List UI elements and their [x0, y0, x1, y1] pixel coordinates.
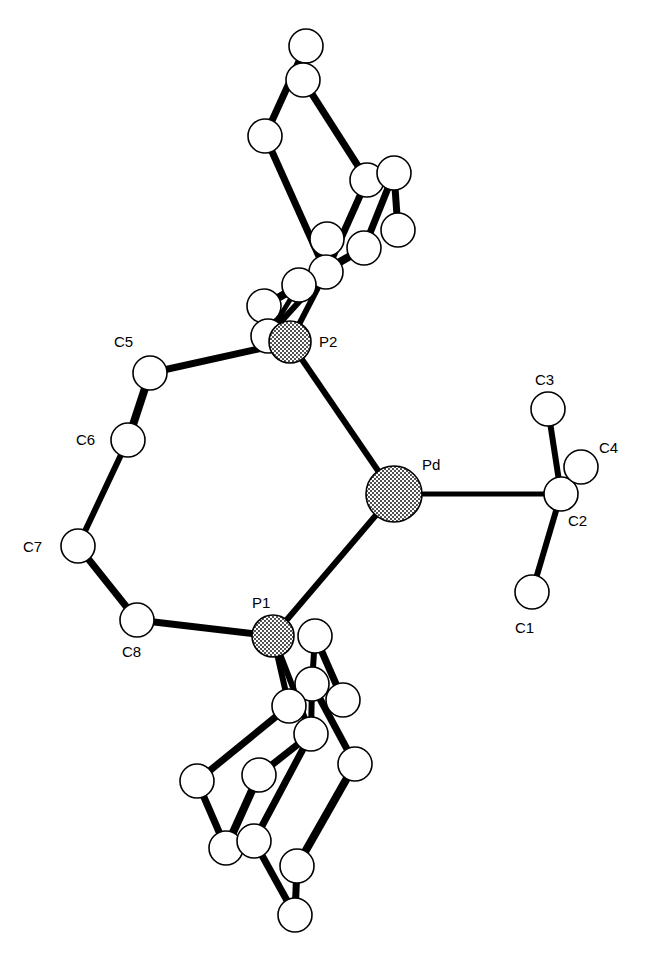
atom-c7: [61, 529, 95, 563]
atom-c1: [515, 575, 549, 609]
atom-pd: [366, 466, 422, 522]
atom-c3: [531, 392, 565, 426]
atom-a6: [381, 213, 415, 247]
bonds-layer: [78, 46, 581, 915]
atom-p1: [252, 615, 294, 657]
label-p2: P2: [319, 333, 337, 350]
atom-b8: [242, 758, 276, 792]
atom-a5: [377, 156, 411, 190]
atom-a1: [289, 29, 323, 63]
label-c7: C7: [23, 538, 42, 555]
atom-c4: [564, 450, 598, 484]
label-p1: P1: [252, 594, 270, 611]
atom-b7: [180, 764, 214, 798]
label-c2: C2: [568, 512, 587, 529]
atom-b3: [326, 683, 360, 717]
atom-a11: [247, 289, 281, 323]
label-pd: Pd: [422, 456, 440, 473]
label-c5: C5: [114, 333, 133, 350]
atom-p2: [269, 321, 311, 363]
atom-a8: [347, 231, 381, 265]
bond-a2-a4: [303, 80, 367, 180]
label-c1: C1: [515, 619, 534, 636]
label-c3: C3: [535, 371, 554, 388]
atom-b12: [278, 898, 312, 932]
label-c6: C6: [76, 431, 95, 448]
atom-a3: [248, 119, 282, 153]
atom-b4: [272, 689, 306, 723]
atom-b11: [280, 849, 314, 883]
atom-c8: [120, 603, 154, 637]
label-c8: C8: [122, 643, 141, 660]
atom-b1: [298, 619, 332, 653]
atoms-layer: [61, 29, 598, 932]
atom-c6: [111, 423, 145, 457]
atom-b10: [237, 824, 271, 858]
atom-a7: [310, 222, 344, 256]
atom-c5: [133, 356, 167, 390]
atom-a10: [282, 268, 316, 302]
atom-a2: [286, 63, 320, 97]
molecular-structure-diagram: Pd P1 P2 C1 C2 C3 C4 C5 C6 C7 C8: [0, 0, 657, 963]
atom-b6: [338, 747, 372, 781]
label-c4: C4: [599, 439, 618, 456]
atom-b5: [294, 717, 328, 751]
